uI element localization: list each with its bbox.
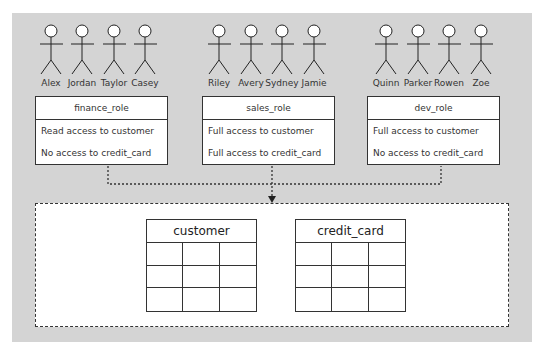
- table-cell: [369, 266, 405, 289]
- user-name: Casey: [125, 78, 165, 88]
- role-permission: Read access to customer: [36, 120, 167, 142]
- table-cell: [183, 243, 219, 266]
- user-figure: [67, 22, 97, 78]
- table-cell: [147, 266, 183, 289]
- role-box-dev: dev_role Full access to customer No acce…: [367, 96, 500, 165]
- role-title: finance_role: [36, 97, 167, 120]
- table-cell: [220, 288, 256, 311]
- table-grid: [296, 243, 405, 311]
- user-figure: [267, 22, 297, 78]
- user-figure: [466, 22, 496, 78]
- user-figure: [130, 22, 160, 78]
- user-figure: [299, 22, 329, 78]
- user-figure: [236, 22, 266, 78]
- table-credit-card: credit_card: [295, 219, 406, 312]
- user-figure: [204, 22, 234, 78]
- user-name: Jamie: [294, 78, 334, 88]
- user-figure: [403, 22, 433, 78]
- role-permission: No access to credit_card: [36, 142, 167, 164]
- role-permission: No access to credit_card: [368, 142, 499, 164]
- table-cell: [369, 288, 405, 311]
- user-figure: [99, 22, 129, 78]
- database-container: [35, 203, 509, 327]
- role-permission: Full access to customer: [368, 120, 499, 142]
- table-grid: [147, 243, 256, 311]
- table-title: customer: [147, 220, 256, 243]
- table-cell: [332, 288, 368, 311]
- table-cell: [296, 243, 332, 266]
- table-cell: [183, 266, 219, 289]
- table-cell: [183, 288, 219, 311]
- table-cell: [220, 266, 256, 289]
- table-cell: [147, 288, 183, 311]
- role-box-finance: finance_role Read access to customer No …: [35, 96, 168, 165]
- role-permission: Full access to customer: [203, 120, 334, 142]
- role-box-sales: sales_role Full access to customer Full …: [202, 96, 335, 165]
- role-title: dev_role: [368, 97, 499, 120]
- stick-figure-icon: [267, 22, 297, 78]
- table-cell: [147, 243, 183, 266]
- role-permission: Full access to credit_card: [203, 142, 334, 164]
- stick-figure-icon: [67, 22, 97, 78]
- stick-figure-icon: [36, 22, 66, 78]
- user-figure: [36, 22, 66, 78]
- table-cell: [296, 266, 332, 289]
- stick-figure-icon: [130, 22, 160, 78]
- table-cell: [369, 243, 405, 266]
- stick-figure-icon: [371, 22, 401, 78]
- table-cell: [296, 288, 332, 311]
- table-title: credit_card: [296, 220, 405, 243]
- user-figure: [371, 22, 401, 78]
- stick-figure-icon: [466, 22, 496, 78]
- table-cell: [220, 243, 256, 266]
- table-customer: customer: [146, 219, 257, 312]
- table-cell: [332, 266, 368, 289]
- stick-figure-icon: [236, 22, 266, 78]
- stick-figure-icon: [99, 22, 129, 78]
- stick-figure-icon: [299, 22, 329, 78]
- role-access-diagram: Alex Jordan Taylor Casey Riley Avery Syd…: [0, 0, 545, 353]
- table-cell: [332, 243, 368, 266]
- role-title: sales_role: [203, 97, 334, 120]
- user-figure: [434, 22, 464, 78]
- stick-figure-icon: [204, 22, 234, 78]
- user-name: Zoe: [461, 78, 501, 88]
- stick-figure-icon: [403, 22, 433, 78]
- stick-figure-icon: [434, 22, 464, 78]
